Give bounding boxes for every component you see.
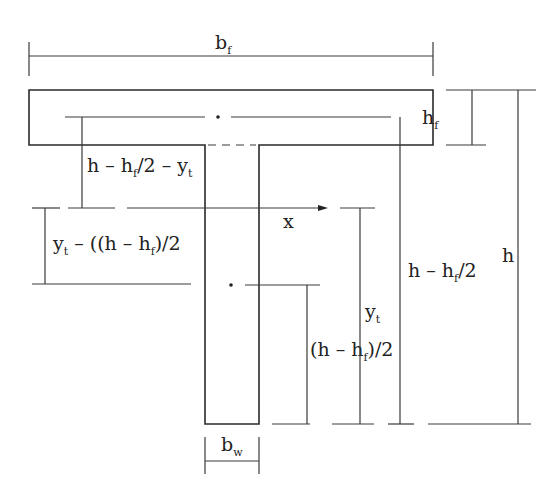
t-section-diagram: bf hf h h – hf/2 x h – hf/2 – yt yt – (0, 0, 554, 500)
flange-centroid-dot (216, 115, 220, 119)
flange-width-label: bf (215, 31, 232, 57)
neutral-axis (32, 205, 375, 211)
centroid-depth-label: yt (364, 300, 381, 326)
half-depth-minus-flange-label: h – hf/2 (408, 259, 477, 285)
web-width-label: bw (221, 433, 243, 459)
web-centroid-depth-label: (h – hf)/2 (310, 338, 393, 364)
t-section-outline (29, 90, 433, 424)
flange-height-label: hf (422, 106, 439, 132)
total-height-dimension (428, 90, 536, 424)
web-offset-label: yt – ((h – hf)/2 (52, 232, 181, 258)
flange-height-dimension (446, 90, 500, 145)
flange-centroid-line (65, 115, 391, 119)
web-centroid-dot (229, 283, 233, 287)
diagram-svg: bf hf h h – hf/2 x h – hf/2 – yt yt – (0, 0, 554, 500)
axis-label-x: x (283, 210, 294, 232)
flange-centroid-distance-label: h – hf/2 – yt (87, 154, 193, 180)
total-height-label: h (502, 244, 514, 266)
